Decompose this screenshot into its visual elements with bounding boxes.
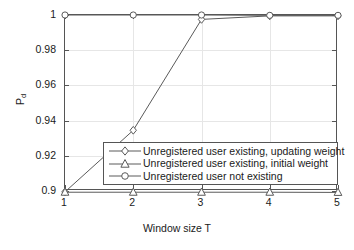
- circle-marker: [335, 12, 341, 18]
- legend-item[interactable]: Unregistered user not existing: [107, 170, 333, 183]
- x-axis-tick-label: 5: [334, 197, 340, 208]
- legend-item[interactable]: Unregistered user existing, initial weig…: [107, 158, 333, 171]
- diamond-marker: [122, 147, 129, 155]
- chart-figure: Pd Window size T 0.90.920.940.960.981 12…: [0, 0, 354, 250]
- y-axis-tick: [332, 191, 336, 192]
- series-2: [62, 12, 341, 19]
- x-axis-tick-label: 1: [61, 197, 67, 208]
- y-axis-tick-label: 0.92: [0, 150, 56, 161]
- series-1: [61, 188, 342, 195]
- legend-label: Unregistered user existing, initial weig…: [143, 158, 328, 169]
- triangle-marker: [121, 159, 129, 167]
- x-axis-title: Window size T: [0, 222, 354, 234]
- y-axis-title: Pd: [14, 94, 26, 105]
- y-axis-tick-label: 0.96: [0, 79, 56, 90]
- legend-item[interactable]: Unregistered user existing, updating wei…: [107, 145, 333, 158]
- x-axis-tick-label: 4: [266, 197, 272, 208]
- y-axis-tick-label: 1: [0, 9, 56, 20]
- triangle-marker: [129, 188, 137, 195]
- circle-marker: [62, 12, 68, 18]
- x-axis-tick-label: 3: [198, 197, 204, 208]
- circle-marker: [267, 12, 273, 18]
- circle-marker: [122, 173, 129, 180]
- triangle-marker: [198, 188, 206, 195]
- legend-symbol: [107, 158, 143, 170]
- legend-label: Unregistered user not existing: [143, 171, 283, 182]
- y-axis-tick-label: 0.94: [0, 114, 56, 125]
- legend-symbol: [107, 145, 143, 157]
- x-axis-tick-label: 2: [129, 197, 135, 208]
- circle-marker: [130, 12, 136, 18]
- y-axis-tick-label: 0.98: [0, 44, 56, 55]
- legend-symbol: [107, 170, 143, 182]
- circle-marker: [198, 12, 204, 18]
- legend-label: Unregistered user existing, updating wei…: [143, 146, 344, 157]
- y-axis-title-base: P: [14, 98, 26, 105]
- y-axis-tick-label: 0.9: [0, 185, 56, 196]
- y-axis-title-subscript: d: [19, 94, 28, 98]
- triangle-marker: [266, 188, 274, 195]
- chart-legend: Unregistered user existing, updating wei…: [103, 142, 338, 185]
